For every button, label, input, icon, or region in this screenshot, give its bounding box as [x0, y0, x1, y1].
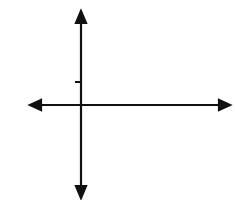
x-axis-left-arrow-icon	[30, 100, 41, 110]
axes	[30, 11, 230, 198]
x-axis-right-arrow-icon	[219, 100, 230, 110]
coordinate-plane	[0, 0, 235, 200]
y-axis-down-arrow-icon	[76, 186, 86, 198]
y-axis-up-arrow-icon	[76, 11, 86, 23]
